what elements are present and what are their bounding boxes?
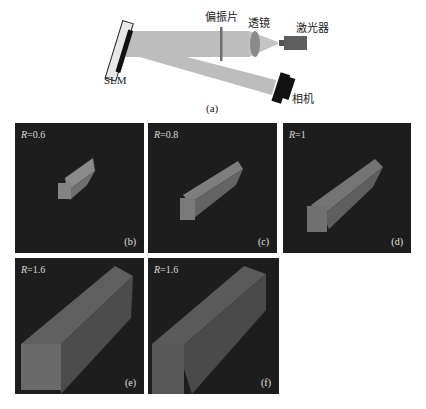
camera-label: 相机	[292, 94, 314, 105]
caption-a: (a)	[206, 103, 218, 114]
polarizer-icon	[220, 27, 223, 61]
bar-render-b	[15, 123, 144, 253]
bar-render-d	[283, 123, 411, 253]
lens-icon	[250, 31, 260, 57]
r-value-c: R=0.8	[154, 129, 178, 140]
polarizer-label: 偏振片	[205, 12, 238, 23]
r-value-f: R=1.6	[154, 264, 178, 275]
panel-label-c: (c)	[258, 236, 269, 247]
r-value-d: R=1	[289, 129, 306, 140]
bar-render-f	[148, 258, 279, 394]
panel-c: R=0.8 (c)	[148, 123, 277, 253]
r-value-b: R=0.6	[21, 129, 45, 140]
laser-icon	[284, 36, 307, 50]
panel-e: R=1.6 (e)	[15, 258, 144, 394]
panel-f: R=1.6 (f)	[148, 258, 279, 394]
lens-label: 透镜	[248, 18, 270, 29]
panel-b: R=0.6 (b)	[15, 123, 144, 253]
laser-label: 激光器	[296, 23, 329, 34]
r-value-e: R=1.6	[21, 264, 45, 275]
panel-label-b: (b)	[124, 236, 136, 247]
reflected-beam	[122, 52, 276, 95]
bar-render-c	[148, 123, 277, 253]
incident-beam	[122, 31, 249, 57]
panel-d: R=1 (d)	[283, 123, 411, 253]
panel-label-d: (d)	[391, 236, 403, 247]
panel-label-f: (f)	[261, 377, 271, 388]
laser-nozzle-icon	[279, 40, 284, 46]
optical-setup-diagram: SLM 偏振片 透镜 激光器 相机 (a)	[0, 0, 426, 115]
bar-render-e	[15, 258, 144, 394]
panel-label-e: (e)	[125, 377, 136, 388]
slm-label: SLM	[104, 75, 127, 86]
